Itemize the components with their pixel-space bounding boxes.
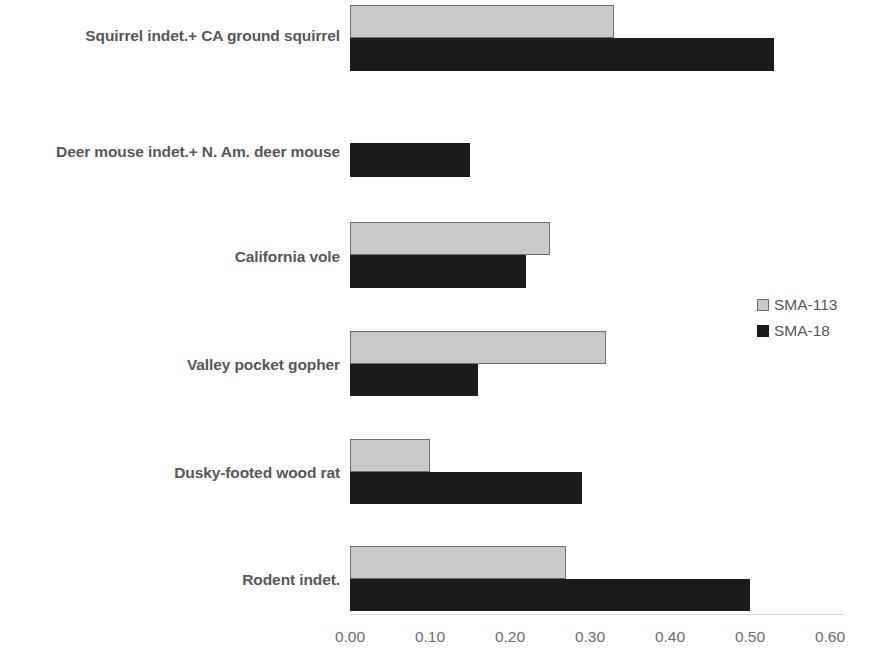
bar-vole-sma113 (350, 222, 550, 255)
legend-item-sma-113[interactable]: SMA-113 (757, 292, 837, 318)
x-axis-line (350, 614, 844, 615)
bar-squirrel-sma18 (350, 38, 774, 71)
x-tick-2: 0.20 (470, 629, 550, 645)
bar-deer-mouse-sma18 (350, 143, 470, 177)
horizontal-bar-chart: Squirrel indet.+ CA ground squirrel Deer… (0, 0, 883, 668)
legend-item-sma-18[interactable]: SMA-18 (757, 318, 837, 344)
bar-squirrel-sma113 (350, 5, 614, 38)
x-tick-6: 0.60 (790, 629, 870, 645)
bar-rodent-sma113 (350, 546, 566, 579)
x-tick-3: 0.30 (550, 629, 630, 645)
category-label-rodent: Rodent indet. (10, 572, 340, 588)
legend-swatch-icon-sma-18 (757, 325, 769, 337)
legend-label-sma-18: SMA-18 (774, 323, 830, 339)
bar-wood-rat-sma113 (350, 439, 430, 472)
category-label-wood-rat: Dusky-footed wood rat (10, 465, 340, 481)
category-label-gopher: Valley pocket gopher (10, 357, 340, 373)
category-label-deer-mouse: Deer mouse indet.+ N. Am. deer mouse (10, 144, 340, 160)
bar-rodent-sma18 (350, 579, 750, 611)
x-tick-4: 0.40 (630, 629, 710, 645)
bar-gopher-sma113 (350, 331, 606, 364)
category-label-squirrel: Squirrel indet.+ CA ground squirrel (10, 28, 340, 44)
x-tick-1: 0.10 (390, 629, 470, 645)
bar-vole-sma18 (350, 255, 526, 288)
bar-gopher-sma18 (350, 364, 478, 396)
legend-label-sma-113: SMA-113 (774, 297, 837, 313)
x-tick-5: 0.50 (710, 629, 790, 645)
legend: SMA-113 SMA-18 (757, 292, 837, 344)
legend-swatch-icon-sma-113 (757, 299, 769, 311)
bar-wood-rat-sma18 (350, 472, 582, 504)
x-tick-0: 0.00 (310, 629, 390, 645)
category-label-vole: California vole (10, 249, 340, 265)
